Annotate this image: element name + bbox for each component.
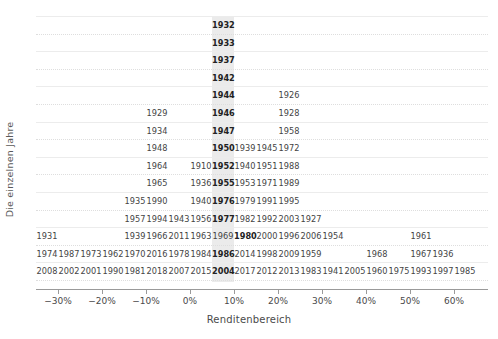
year-cell: 2006 bbox=[300, 230, 322, 242]
x-tick bbox=[58, 289, 59, 294]
year-cell: 1933 bbox=[212, 37, 234, 49]
year-cell: 1950 bbox=[212, 142, 234, 154]
year-cell: 1992 bbox=[256, 213, 278, 225]
year-cell: 1936 bbox=[432, 248, 454, 260]
year-cell: 1943 bbox=[168, 213, 190, 225]
gridline bbox=[36, 280, 488, 281]
year-cell: 1955 bbox=[212, 177, 234, 189]
gridline bbox=[36, 192, 488, 193]
year-cell: 1937 bbox=[212, 54, 234, 66]
year-cell: 1977 bbox=[212, 213, 234, 225]
year-cell: 1948 bbox=[146, 142, 168, 154]
year-cell: 2000 bbox=[256, 230, 278, 242]
year-cell: 1990 bbox=[102, 265, 124, 277]
year-cell: 1957 bbox=[124, 213, 146, 225]
year-cell: 1987 bbox=[58, 248, 80, 260]
x-tick-label: 20% bbox=[258, 296, 298, 306]
year-cell: 1976 bbox=[212, 195, 234, 207]
year-cell: 1966 bbox=[146, 230, 168, 242]
year-cell: 1994 bbox=[146, 213, 168, 225]
year-cell: 1935 bbox=[124, 195, 146, 207]
year-cell: 1979 bbox=[234, 195, 256, 207]
x-tick bbox=[366, 289, 367, 294]
year-cell: 1973 bbox=[80, 248, 102, 260]
year-cell: 1980 bbox=[234, 230, 256, 242]
year-cell: 1969 bbox=[212, 230, 234, 242]
year-cell: 1989 bbox=[278, 177, 300, 189]
gridline bbox=[36, 139, 488, 140]
year-cell: 1928 bbox=[278, 107, 300, 119]
gridline bbox=[36, 122, 488, 123]
year-cell: 2009 bbox=[278, 248, 300, 260]
y-axis-title: Die einzelnen Jahre bbox=[0, 0, 18, 339]
x-tick-label: 0% bbox=[170, 296, 210, 306]
x-tick bbox=[234, 289, 235, 294]
year-cell: 1960 bbox=[366, 265, 388, 277]
year-cell: 1952 bbox=[212, 160, 234, 172]
x-tick bbox=[278, 289, 279, 294]
year-cell: 1972 bbox=[278, 142, 300, 154]
year-cell: 1961 bbox=[410, 230, 432, 242]
x-tick bbox=[190, 289, 191, 294]
year-cell: 2014 bbox=[234, 248, 256, 260]
gridline bbox=[36, 157, 488, 158]
year-cell: 2017 bbox=[234, 265, 256, 277]
year-cell: 1926 bbox=[278, 89, 300, 101]
year-cell: 2011 bbox=[168, 230, 190, 242]
year-cell: 2016 bbox=[146, 248, 168, 260]
gridline bbox=[36, 104, 488, 105]
year-cell: 2018 bbox=[146, 265, 168, 277]
year-cell: 2001 bbox=[80, 265, 102, 277]
gridline bbox=[36, 34, 488, 35]
year-cell: 1931 bbox=[36, 230, 58, 242]
year-cell: 1995 bbox=[278, 195, 300, 207]
plot-area: 1932193319371942194419261929194619281934… bbox=[36, 16, 488, 282]
x-tick-label: 30% bbox=[302, 296, 342, 306]
year-cell: 1974 bbox=[36, 248, 58, 260]
gridline bbox=[36, 227, 488, 228]
x-tick bbox=[146, 289, 147, 294]
year-cell: 1971 bbox=[256, 177, 278, 189]
year-cell: 1953 bbox=[234, 177, 256, 189]
year-cell: 1939 bbox=[124, 230, 146, 242]
year-cell: 1965 bbox=[146, 177, 168, 189]
year-cell: 1927 bbox=[300, 213, 322, 225]
gridline bbox=[36, 51, 488, 52]
year-cell: 1997 bbox=[432, 265, 454, 277]
year-cell: 1958 bbox=[278, 125, 300, 137]
year-cell: 1988 bbox=[278, 160, 300, 172]
year-cell: 1942 bbox=[212, 72, 234, 84]
year-cell: 1934 bbox=[146, 125, 168, 137]
year-cell: 1939 bbox=[234, 142, 256, 154]
x-tick-label: 50% bbox=[390, 296, 430, 306]
year-cell: 1978 bbox=[168, 248, 190, 260]
gridline bbox=[36, 245, 488, 246]
year-cell: 1940 bbox=[190, 195, 212, 207]
year-cell: 1984 bbox=[190, 248, 212, 260]
year-cell: 1996 bbox=[278, 230, 300, 242]
year-cell: 2012 bbox=[256, 265, 278, 277]
year-cell: 1962 bbox=[102, 248, 124, 260]
year-cell: 1954 bbox=[322, 230, 344, 242]
year-cell: 1936 bbox=[190, 177, 212, 189]
year-cell: 1970 bbox=[124, 248, 146, 260]
year-cell: 2015 bbox=[190, 265, 212, 277]
year-cell: 1991 bbox=[256, 195, 278, 207]
year-cell: 1944 bbox=[212, 89, 234, 101]
x-tick bbox=[322, 289, 323, 294]
x-tick bbox=[410, 289, 411, 294]
year-cell: 1956 bbox=[190, 213, 212, 225]
year-cell: 1975 bbox=[388, 265, 410, 277]
year-cell: 1910 bbox=[190, 160, 212, 172]
year-cell: 1929 bbox=[146, 107, 168, 119]
year-cell: 1959 bbox=[300, 248, 322, 260]
x-tick-label: −30% bbox=[38, 296, 78, 306]
gridline bbox=[36, 210, 488, 211]
year-cell: 1985 bbox=[454, 265, 476, 277]
gridline bbox=[36, 16, 488, 17]
gridline bbox=[36, 86, 488, 87]
year-cell: 1993 bbox=[410, 265, 432, 277]
gridline bbox=[36, 174, 488, 175]
x-tick bbox=[454, 289, 455, 294]
year-cell: 1946 bbox=[212, 107, 234, 119]
